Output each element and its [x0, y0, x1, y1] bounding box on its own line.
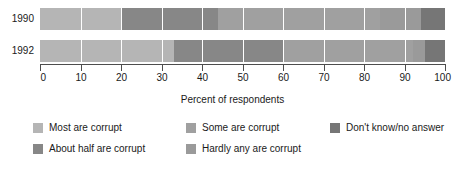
bar-segment [413, 40, 425, 62]
legend-item: About half are corrupt [33, 140, 145, 157]
category-label-1992: 1992 [0, 45, 34, 57]
tick-mark [364, 64, 365, 71]
legend: Most are corruptAbout half are corruptSo… [33, 119, 465, 159]
tick-label: 100 [434, 72, 451, 84]
plot-area [40, 8, 445, 64]
tick-label: 40 [197, 72, 208, 84]
bar-segment [40, 40, 174, 62]
tick-mark [405, 64, 406, 71]
tick-label: 60 [278, 72, 289, 84]
tick-mark [81, 64, 82, 71]
bar-row-1992 [40, 40, 445, 62]
tick-label: 0 [40, 72, 46, 84]
x-axis-title: Percent of respondents [0, 94, 465, 106]
x-axis-ticks [40, 64, 445, 72]
legend-item: Hardly any are corrupt [186, 140, 301, 157]
tick-label: 20 [116, 72, 127, 84]
stacked-bar-chart: 1990 1992 0102030405060708090100 Percent… [0, 0, 465, 173]
tick-mark [40, 64, 41, 71]
bar-segment [121, 8, 218, 30]
tick-label: 90 [399, 72, 410, 84]
legend-column: Some are corruptHardly any are corrupt [186, 119, 301, 161]
bar-segment [174, 40, 283, 62]
category-label-1990: 1990 [0, 13, 34, 25]
legend-label: About half are corrupt [49, 143, 145, 155]
legend-swatch-icon [330, 123, 340, 133]
legend-item: Most are corrupt [33, 119, 145, 136]
bar-segment [283, 40, 413, 62]
tick-mark [283, 64, 284, 71]
tick-label: 50 [237, 72, 248, 84]
legend-label: Some are corrupt [202, 122, 279, 134]
tick-mark [445, 64, 446, 71]
legend-label: Most are corrupt [49, 122, 122, 134]
legend-label: Don't know/no answer [346, 122, 444, 134]
legend-label: Hardly any are corrupt [202, 143, 301, 155]
legend-item: Don't know/no answer [330, 119, 444, 136]
tick-mark [324, 64, 325, 71]
bar-row-1990 [40, 8, 445, 30]
bar-segment [380, 8, 421, 30]
bar-segment [40, 8, 121, 30]
tick-mark [162, 64, 163, 71]
legend-swatch-icon [33, 144, 43, 154]
bar-segment [425, 40, 445, 62]
tick-label: 30 [156, 72, 167, 84]
legend-swatch-icon [33, 123, 43, 133]
bar-segment [421, 8, 445, 30]
gridline [445, 8, 446, 64]
bar-segment [218, 8, 380, 30]
tick-mark [202, 64, 203, 71]
tick-label: 70 [318, 72, 329, 84]
x-axis-tick-labels: 0102030405060708090100 [0, 72, 465, 86]
tick-mark [121, 64, 122, 71]
legend-column: Most are corruptAbout half are corrupt [33, 119, 145, 161]
tick-label: 80 [359, 72, 370, 84]
legend-swatch-icon [186, 144, 196, 154]
tick-mark [243, 64, 244, 71]
tick-label: 10 [75, 72, 86, 84]
legend-swatch-icon [186, 123, 196, 133]
legend-column: Don't know/no answer [330, 119, 444, 140]
legend-item: Some are corrupt [186, 119, 301, 136]
